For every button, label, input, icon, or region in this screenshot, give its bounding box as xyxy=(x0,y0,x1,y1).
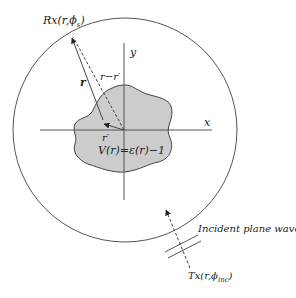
transmitter-label: Tx(r,ϕinc) xyxy=(188,270,233,284)
r-prime-label: r′ xyxy=(102,132,110,143)
r-vector xyxy=(72,38,103,120)
x-axis-label: x xyxy=(204,116,211,129)
incident-wave-direction xyxy=(166,210,190,268)
potential-label: V(r)=ε(r)−1 xyxy=(98,144,165,157)
receiver-label: Rx(r,ϕs) xyxy=(42,14,85,29)
r-minus-rprime-label: r−r′ xyxy=(100,71,121,82)
y-axis-label: y xyxy=(129,46,137,59)
incident-wave-label: Incident plane wave xyxy=(197,223,296,234)
r-label: r xyxy=(80,76,87,89)
diagram-canvas: Rx(r,ϕs) y x r r−r′ r′ V(r)=ε(r)−1 Incid… xyxy=(0,0,296,298)
wavefront-line-1 xyxy=(165,235,198,252)
wavefront-line-2 xyxy=(168,241,201,258)
